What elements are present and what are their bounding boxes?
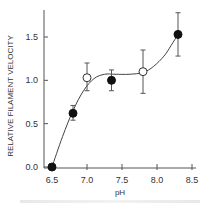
- axes: [44, 10, 196, 168]
- data-point-filled: [174, 30, 182, 38]
- y-tick-label: 0.5: [25, 119, 38, 129]
- x-axis-label: pH: [115, 188, 125, 197]
- x-tick-label: 7.0: [81, 175, 94, 185]
- data-point-open: [139, 68, 147, 76]
- x-tick-label: 8.5: [186, 175, 199, 185]
- figure-caption: [20, 200, 200, 203]
- y-tick-label: 1.0: [25, 75, 38, 85]
- x-tick-label: 8.0: [151, 175, 164, 185]
- fit-curve-line: [52, 34, 178, 167]
- data-point-filled: [69, 109, 77, 117]
- chart: 0.00.51.01.5 6.57.07.58.08.5 pH RELATIVE…: [0, 0, 208, 209]
- data-point-open: [83, 74, 91, 82]
- y-tick-label: 0.0: [25, 162, 38, 172]
- data-point-filled: [48, 163, 56, 171]
- x-tick-label: 6.5: [46, 175, 59, 185]
- x-tick-label: 7.5: [116, 175, 129, 185]
- y-axis-label: RELATIVE FILAMENT VELOCITY: [6, 35, 15, 157]
- data-point-filled: [108, 76, 116, 84]
- y-tick-label: 1.5: [25, 32, 38, 42]
